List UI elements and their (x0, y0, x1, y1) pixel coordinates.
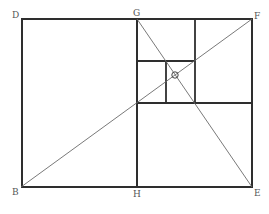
label-G: G (133, 8, 140, 18)
label-F: F (254, 11, 260, 21)
label-H: H (133, 189, 141, 199)
golden-rectangle-diagram: D G F E H B (0, 0, 269, 214)
label-D: D (12, 10, 19, 20)
label-B: B (12, 187, 19, 197)
label-E: E (254, 188, 261, 198)
